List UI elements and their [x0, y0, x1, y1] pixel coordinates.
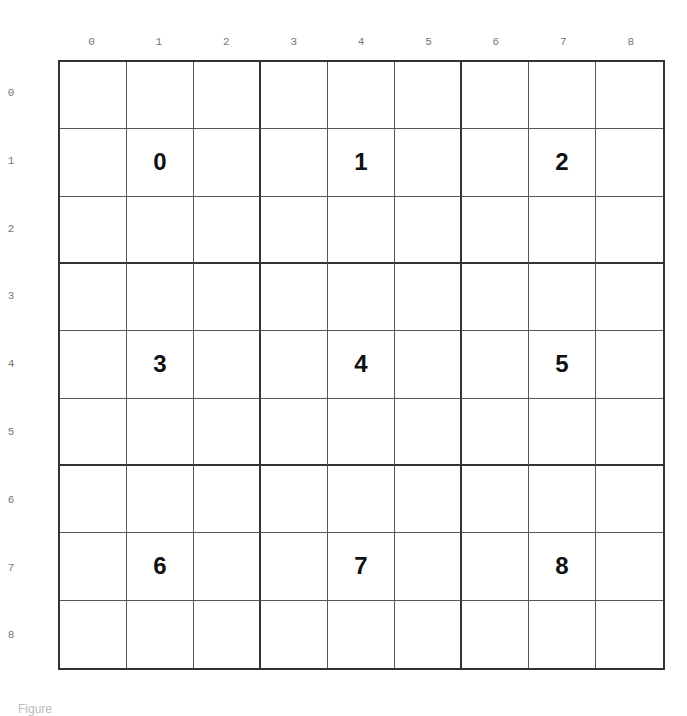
- grid-cell[interactable]: [395, 466, 462, 533]
- column-label: 3: [260, 36, 327, 48]
- grid-cell[interactable]: [194, 601, 261, 668]
- grid-cell[interactable]: [261, 466, 328, 533]
- grid-cell[interactable]: [127, 197, 194, 264]
- grid-cell[interactable]: [328, 197, 395, 264]
- column-label: 5: [395, 36, 462, 48]
- grid-cell[interactable]: [462, 466, 529, 533]
- column-label: 6: [462, 36, 529, 48]
- sudoku-grid: 012345678: [58, 60, 665, 670]
- grid-cell[interactable]: [529, 601, 596, 668]
- grid-cell[interactable]: [60, 399, 127, 466]
- grid-cell[interactable]: [60, 331, 127, 398]
- grid-cell[interactable]: [395, 601, 462, 668]
- grid-cell[interactable]: [127, 264, 194, 331]
- grid-cell[interactable]: [60, 466, 127, 533]
- grid-cell[interactable]: [596, 466, 663, 533]
- grid-cell[interactable]: [261, 129, 328, 196]
- grid-cell[interactable]: [596, 62, 663, 129]
- grid-cell[interactable]: [462, 601, 529, 668]
- grid-cell[interactable]: [529, 399, 596, 466]
- row-label: 8: [0, 602, 22, 669]
- box-number-cell[interactable]: 8: [529, 533, 596, 600]
- grid-cell[interactable]: [529, 197, 596, 264]
- grid-cell[interactable]: [328, 62, 395, 129]
- grid-cell[interactable]: [194, 129, 261, 196]
- grid-cell[interactable]: [261, 62, 328, 129]
- grid-cell[interactable]: [328, 264, 395, 331]
- row-label: 2: [0, 196, 22, 263]
- column-label: 1: [125, 36, 192, 48]
- box-number-cell[interactable]: 4: [328, 331, 395, 398]
- column-label: 7: [530, 36, 597, 48]
- grid-cell[interactable]: [462, 62, 529, 129]
- grid-cell[interactable]: [60, 129, 127, 196]
- grid-cell[interactable]: [328, 601, 395, 668]
- grid-cell[interactable]: [395, 331, 462, 398]
- grid-cell[interactable]: [127, 399, 194, 466]
- figure-caption: Figure: [18, 702, 52, 716]
- grid-cell[interactable]: [194, 197, 261, 264]
- box-number-cell[interactable]: 1: [328, 129, 395, 196]
- box-number-cell[interactable]: 7: [328, 533, 395, 600]
- column-label: 4: [328, 36, 395, 48]
- grid-cell[interactable]: [261, 399, 328, 466]
- grid-cell[interactable]: [194, 466, 261, 533]
- grid-cell[interactable]: [194, 399, 261, 466]
- grid-cell[interactable]: [529, 264, 596, 331]
- grid-cell[interactable]: [596, 601, 663, 668]
- grid-cell[interactable]: [395, 129, 462, 196]
- grid-cell[interactable]: [60, 197, 127, 264]
- grid-cell[interactable]: [462, 331, 529, 398]
- column-label: 0: [58, 36, 125, 48]
- grid-cell[interactable]: [127, 466, 194, 533]
- grid-cell[interactable]: [462, 264, 529, 331]
- grid-cell[interactable]: [395, 197, 462, 264]
- grid-cell[interactable]: [596, 197, 663, 264]
- grid-cell[interactable]: [194, 62, 261, 129]
- grid-cell[interactable]: [462, 399, 529, 466]
- grid-cell[interactable]: [328, 466, 395, 533]
- grid-cell[interactable]: [60, 533, 127, 600]
- grid-cell[interactable]: [194, 533, 261, 600]
- column-label: 8: [597, 36, 664, 48]
- grid-cell[interactable]: [60, 601, 127, 668]
- box-number-cell[interactable]: 0: [127, 129, 194, 196]
- box-number-cell[interactable]: 6: [127, 533, 194, 600]
- grid-cell[interactable]: [60, 264, 127, 331]
- row-label: 6: [0, 467, 22, 534]
- grid-cell[interactable]: [462, 197, 529, 264]
- grid-cell[interactable]: [529, 62, 596, 129]
- box-number-cell[interactable]: 5: [529, 331, 596, 398]
- row-label: 3: [0, 263, 22, 330]
- grid-cell[interactable]: [261, 264, 328, 331]
- grid-cell[interactable]: [395, 264, 462, 331]
- grid-cell[interactable]: [127, 601, 194, 668]
- grid-cell[interactable]: [596, 533, 663, 600]
- row-label: 7: [0, 535, 22, 602]
- box-number-cell[interactable]: 3: [127, 331, 194, 398]
- grid-cell[interactable]: [395, 533, 462, 600]
- grid-cell[interactable]: [596, 331, 663, 398]
- grid-cell[interactable]: [462, 533, 529, 600]
- grid-cell[interactable]: [261, 601, 328, 668]
- grid-cell[interactable]: [596, 129, 663, 196]
- column-label: 2: [193, 36, 260, 48]
- grid-cell[interactable]: [194, 264, 261, 331]
- grid-cell[interactable]: [395, 62, 462, 129]
- grid-cell[interactable]: [328, 399, 395, 466]
- grid-cell[interactable]: [194, 331, 261, 398]
- grid-cell[interactable]: [596, 264, 663, 331]
- grid-cell[interactable]: [261, 533, 328, 600]
- grid-cell[interactable]: [596, 399, 663, 466]
- row-label: 4: [0, 331, 22, 398]
- row-label: 5: [0, 399, 22, 466]
- grid-cell[interactable]: [462, 129, 529, 196]
- grid-cell[interactable]: [261, 331, 328, 398]
- grid-cell[interactable]: [395, 399, 462, 466]
- grid-cell[interactable]: [261, 197, 328, 264]
- grid-cell[interactable]: [127, 62, 194, 129]
- row-label: 1: [0, 128, 22, 195]
- grid-cell[interactable]: [529, 466, 596, 533]
- grid-cell[interactable]: [60, 62, 127, 129]
- box-number-cell[interactable]: 2: [529, 129, 596, 196]
